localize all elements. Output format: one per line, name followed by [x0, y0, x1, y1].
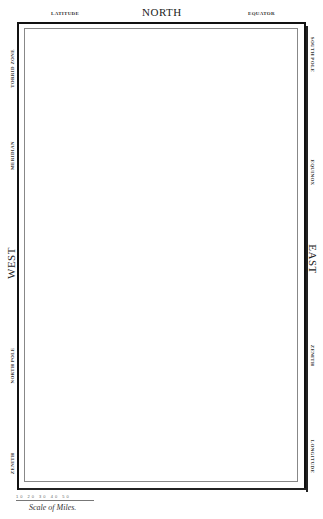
scale-caption: Scale of Miles. — [29, 503, 76, 512]
scale-ticks: 10 20 30 40 50 — [16, 494, 71, 499]
left-label-north-pole: NORTH POLE — [10, 346, 15, 386]
top-left-label: LATITUDE — [51, 11, 79, 16]
map-frame-shadow — [19, 488, 306, 490]
right-label-equinox: EQUINOX — [310, 153, 315, 193]
left-label-torrid-zone: TORRID ZONE — [10, 49, 15, 89]
top-right-label: EQUATOR — [248, 11, 275, 16]
map-frame-inner — [24, 28, 298, 482]
left-label-zenith: ZENITH — [10, 444, 15, 484]
right-label-longitude: LONGITUDE — [310, 437, 315, 477]
east-label: EAST — [307, 236, 319, 282]
scale-bar — [16, 500, 94, 501]
west-label: WEST — [5, 240, 17, 286]
left-label-meridian: MERIDIAN — [10, 136, 15, 176]
right-label-south-pole: SOUTH POLE — [310, 35, 315, 75]
north-label: NORTH — [142, 6, 182, 18]
right-label-zenith: ZENITH — [310, 336, 315, 376]
